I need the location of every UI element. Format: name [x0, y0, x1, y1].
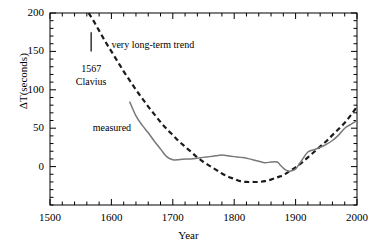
- axis-frame: [50, 13, 357, 205]
- delta-t-chart-figure: 150016001700180019002000 050100150200 ∆T…: [0, 0, 377, 250]
- x-tick-label: 1900: [281, 212, 311, 223]
- annotation-clavius-year: 1567: [51, 63, 131, 74]
- x-tick-label: 1700: [158, 212, 188, 223]
- x-tick-label: 2000: [342, 212, 372, 223]
- annotation-very-long-term-trend: very long-term trend: [111, 39, 194, 50]
- y-axis-ticks-left: [50, 13, 56, 205]
- x-tick-label: 1600: [96, 212, 126, 223]
- x-axis-ticks-top: [50, 13, 357, 19]
- y-axis-title-text: T(seconds): [17, 53, 29, 102]
- x-axis-title: Year: [0, 229, 377, 241]
- annotation-clavius-name: Clavius: [51, 76, 131, 87]
- y-tick-label: 0: [16, 161, 44, 172]
- y-tick-label: 200: [16, 7, 44, 18]
- x-tick-label: 1800: [219, 212, 249, 223]
- y-axis-title: ∆T(seconds): [17, 26, 29, 136]
- x-tick-label: 1500: [35, 212, 65, 223]
- annotation-measured: measured: [93, 122, 131, 133]
- series-measured: [130, 102, 357, 171]
- delta-symbol: ∆: [17, 102, 29, 109]
- x-axis-ticks-bottom: [50, 199, 357, 205]
- plot-frame: [50, 13, 357, 205]
